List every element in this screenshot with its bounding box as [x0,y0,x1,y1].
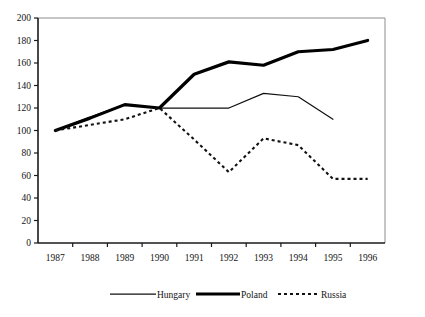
series-line-poland [55,41,367,131]
y-axis-tick-label: 180 [17,36,32,46]
x-axis-tick-labels: 1987198819891990199119921993199419951996 [46,253,378,263]
legend-label-hungary: Hungary [157,290,190,300]
x-axis-tick-label: 1987 [46,253,65,263]
x-axis-tick-label: 1988 [81,253,100,263]
chart-canvas: 020406080100120140160180200 198719881989… [0,0,425,317]
x-axis-tick-label: 1995 [323,253,342,263]
y-axis-tick-label: 40 [22,193,32,203]
x-axis-tick-label: 1996 [358,253,377,263]
y-axis-tick-label: 160 [17,58,32,68]
series-line-hungary [55,93,333,130]
plot-frame [38,18,385,243]
legend-label-russia: Russia [321,290,347,300]
x-axis-tick-label: 1992 [219,253,238,263]
y-axis-tick-label: 80 [22,148,32,158]
x-axis-tick-label: 1994 [289,253,308,263]
data-series-group [55,41,367,179]
y-axis-tick-label: 20 [22,216,32,226]
x-axis-tick-label: 1991 [185,253,204,263]
x-axis-tick-label: 1990 [150,253,169,263]
y-axis-tick-label: 60 [22,171,32,181]
chart-legend: HungaryPolandRussia [110,290,347,300]
x-axis-tick-label: 1993 [254,253,273,263]
y-axis-tick-label: 0 [26,238,31,248]
y-axis-tick-label: 200 [17,13,32,23]
legend-label-poland: Poland [241,290,268,300]
y-axis-tick-label: 120 [17,103,32,113]
y-axis-tick-label: 140 [17,81,32,91]
x-axis-tick-label: 1989 [115,253,134,263]
y-axis-tick-label: 100 [17,126,32,136]
series-line-russia [55,108,367,179]
line-chart: 020406080100120140160180200 198719881989… [0,0,425,317]
y-axis-tick-labels: 020406080100120140160180200 [17,13,32,248]
